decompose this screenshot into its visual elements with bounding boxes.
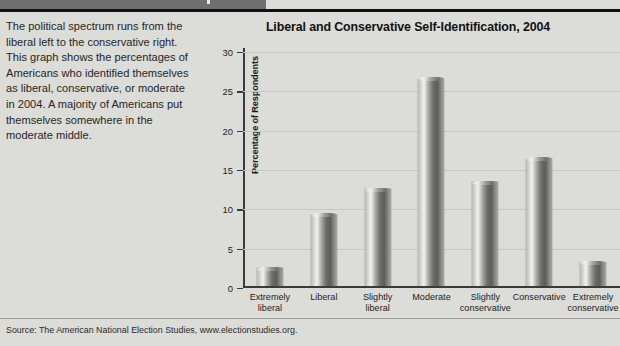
y-axis-tick-label: 20 [223,125,233,136]
y-axis-tick [237,288,243,289]
x-axis-tick-label-line: Extremely [561,292,620,303]
bar[interactable] [472,182,498,286]
bar-slot [351,52,405,286]
bar-slot [512,52,566,286]
figure-page: The political spectrum runs from the lib… [0,0,620,346]
bar[interactable] [418,79,444,287]
caption-text: The political spectrum runs from the lib… [6,19,192,144]
band-notch [207,0,210,4]
y-axis-tick-label: 15 [223,165,233,176]
y-axis-tick-label: 0 [228,283,233,294]
y-axis-tick-label: 30 [223,47,233,58]
x-axis-tick-label: Extremelyconservative [561,292,620,315]
bar-slot [458,52,512,286]
chart-title: Liberal and Conservative Self-Identifica… [196,20,620,34]
bar-slot [566,52,620,286]
bar[interactable] [526,159,552,287]
x-axis-tick-label-line: conservative [453,303,517,314]
bar[interactable] [365,189,391,286]
chart-panel: Liberal and Conservative Self-Identifica… [196,14,620,317]
bar-slot [405,52,459,286]
x-axis-tick-label-line: liberal [346,303,410,314]
top-black-rule [0,9,620,12]
bar-series [243,52,620,286]
plot-area: 051015202530 [243,52,620,288]
bar-slot [243,52,297,286]
y-axis-tick-label: 10 [223,204,233,215]
x-axis-tick-label-line: liberal [238,303,302,314]
x-axis-tick-label-line: conservative [561,303,620,314]
footer-divider [0,318,620,319]
source-note: Source: The American National Election S… [6,325,297,335]
top-gray-band [0,0,266,9]
x-axis-line [243,286,620,288]
bar[interactable] [580,263,606,287]
bar-slot [297,52,351,286]
bar[interactable] [311,215,337,287]
bar[interactable] [257,268,283,286]
y-axis-tick-label: 25 [223,86,233,97]
y-axis-tick-label: 5 [228,243,233,254]
